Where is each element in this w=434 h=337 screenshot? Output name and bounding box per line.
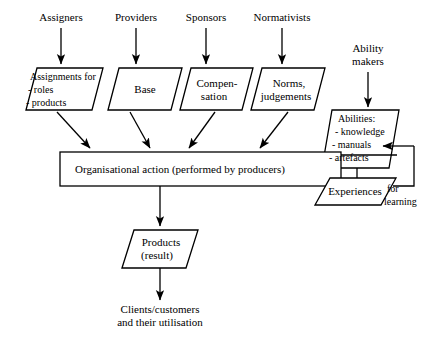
products-label-line1: Products bbox=[142, 236, 181, 248]
outcome-label-line2: and their utilisation bbox=[117, 316, 203, 328]
input-label-norms-line1: Norms, bbox=[273, 77, 306, 89]
arrow-norms-to-action bbox=[260, 112, 288, 148]
input-label-compensation-line2: sation bbox=[201, 90, 227, 102]
input-label-assignments-line2: - roles bbox=[28, 84, 53, 95]
diagram-canvas: Assigners Providers Sponsors Normativist… bbox=[0, 0, 434, 337]
input-label-norms-line2: judgements bbox=[261, 90, 312, 102]
abilities-label-line1: Abilities: bbox=[338, 113, 375, 124]
actor-label-providers: Providers bbox=[115, 11, 157, 23]
arrow-compensation-to-action bbox=[189, 112, 215, 148]
input-label-base: Base bbox=[134, 83, 155, 95]
abilities-label-line4: - artefacts bbox=[329, 152, 369, 163]
feedback-label-line2: learning bbox=[384, 196, 417, 207]
products-label-line2: (result) bbox=[141, 249, 173, 261]
input-label-assignments-line3: - products bbox=[26, 97, 66, 108]
feedback-label-line1: for bbox=[387, 183, 399, 194]
actor-label-ability-makers-line2: makers bbox=[352, 55, 384, 67]
input-label-assignments-line1: Assignments for bbox=[30, 71, 96, 82]
actor-label-normativists: Normativists bbox=[254, 11, 311, 23]
abilities-label-line2: - knowledge bbox=[335, 126, 385, 137]
actor-label-sponsors: Sponsors bbox=[186, 11, 226, 23]
feedback-loop-path bbox=[393, 146, 414, 186]
arrow-assignments-to-action bbox=[57, 112, 90, 148]
action-label: Organisational action (performed by prod… bbox=[75, 163, 285, 175]
experiences-label: Experiences bbox=[328, 185, 382, 197]
arrow-base-to-action bbox=[130, 112, 150, 148]
abilities-label-line3: - manuals bbox=[332, 139, 371, 150]
actor-label-assigners: Assigners bbox=[39, 11, 82, 23]
input-label-compensation-line1: Compen- bbox=[197, 77, 238, 89]
outcome-label-line1: Clients/customers bbox=[121, 303, 200, 315]
actor-label-ability-makers-line1: Ability bbox=[352, 42, 383, 54]
